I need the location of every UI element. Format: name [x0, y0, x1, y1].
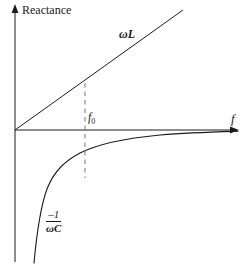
reactance-vs-frequency-figure: Reactance f ωL f0 –1 ωC: [0, 0, 244, 266]
y-axis-arrowhead: [12, 4, 19, 13]
x-axis-label: f: [231, 112, 235, 125]
capacitive-label-numerator: –1: [46, 209, 61, 222]
y-axis-label: Reactance: [22, 4, 71, 16]
inductive-reactance-line: [15, 10, 183, 130]
inductive-reactance-label: ωL: [119, 28, 135, 40]
resonant-frequency-tick-label: f0: [88, 111, 95, 126]
y-axis: [12, 4, 19, 262]
x-axis-arrowhead: [230, 127, 239, 134]
capacitive-reactance-curve: [34, 131, 238, 263]
capacitive-reactance-label: –1 ωC: [46, 209, 61, 234]
capacitive-label-denominator: ωC: [46, 222, 61, 234]
f0-subscript: 0: [91, 117, 95, 126]
